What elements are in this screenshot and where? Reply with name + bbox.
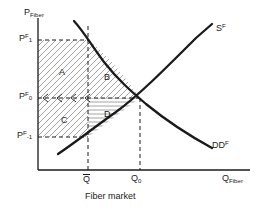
supply-curve-label: SF bbox=[216, 23, 226, 33]
region-D-label: D bbox=[104, 110, 111, 119]
region-B-label: B bbox=[104, 73, 110, 82]
demand-curve-label: DDF bbox=[212, 140, 229, 150]
region-D-shading bbox=[88, 98, 140, 137]
region-C-label: C bbox=[61, 116, 68, 125]
y-axis-label: PFiber bbox=[24, 8, 44, 18]
fiber-market-supply-demand-figure: PFiber PF1 PF0 PF-1 A B C D SF DDF Q Q0 … bbox=[0, 0, 258, 209]
region-A-label: A bbox=[59, 68, 65, 77]
y-tick-label-pminus1: PF-1 bbox=[17, 130, 32, 140]
x-tick-label-q0: Q0 bbox=[131, 174, 141, 184]
y-tick-label-p0: PF0 bbox=[19, 91, 32, 101]
y-tick-label-p1: PF1 bbox=[19, 33, 32, 43]
x-tick-label-qbar: Q bbox=[83, 174, 90, 184]
figure-caption: Fiber market bbox=[85, 192, 136, 201]
x-axis-label: QFiber bbox=[222, 174, 243, 184]
